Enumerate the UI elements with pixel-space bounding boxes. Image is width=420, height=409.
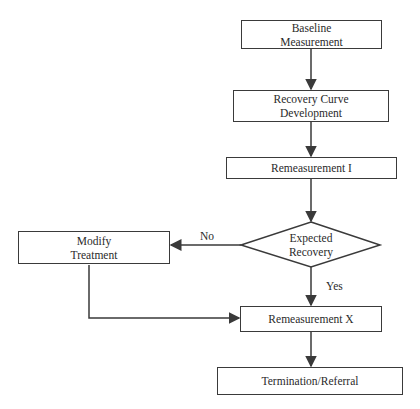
node-text: Remeasurement X xyxy=(268,312,353,326)
node-text: Modify xyxy=(71,234,118,248)
node-text: Recovery Curve xyxy=(273,92,348,106)
node-remeasurement-1: Remeasurement I xyxy=(226,157,397,179)
node-text: Recovery xyxy=(261,245,361,259)
node-termination-referral: Termination/Referral xyxy=(217,367,403,395)
edge-label-yes: Yes xyxy=(326,280,343,292)
node-text: Expected xyxy=(261,231,361,245)
node-text: Development xyxy=(273,106,348,120)
arrow-modify-to-remeasurex xyxy=(89,265,239,318)
node-recovery-curve-development: Recovery CurveDevelopment xyxy=(233,90,389,122)
node-text: Remeasurement I xyxy=(271,161,352,175)
node-baseline-measurement: BaselineMeasurement xyxy=(241,20,382,49)
node-modify-treatment: ModifyTreatment xyxy=(18,231,170,264)
node-remeasurement-x: Remeasurement X xyxy=(240,306,382,332)
node-text: Treatment xyxy=(71,248,118,262)
edge-label-no: No xyxy=(200,230,214,242)
flow-connectors xyxy=(0,0,420,409)
node-text: Measurement xyxy=(280,35,343,49)
node-expected-recovery: Expected Recovery xyxy=(261,231,361,259)
node-text: Termination/Referral xyxy=(262,374,359,388)
node-text: Baseline xyxy=(280,21,343,35)
